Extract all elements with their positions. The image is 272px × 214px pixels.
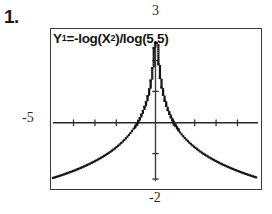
problem-number: 1.: [4, 6, 19, 28]
equation-label: Y1=-log(X2)/log(5.5): [53, 30, 260, 46]
window-label-top: 3: [152, 3, 159, 19]
data-curve: [52, 42, 257, 179]
equation-body: =-log(X: [66, 31, 110, 46]
window-label-bottom: -2: [149, 190, 161, 206]
calculator-screen: Y1=-log(X2)/log(5.5): [50, 28, 262, 190]
equation-y-var: Y: [53, 31, 62, 46]
equation-tail: )/log(5.5): [115, 31, 168, 46]
screenshot-root: 1. 3 -5 -2 Y1=-log(X2)/log(5.5): [0, 0, 272, 214]
plot-area: [51, 29, 260, 188]
window-label-left: -5: [22, 110, 34, 126]
